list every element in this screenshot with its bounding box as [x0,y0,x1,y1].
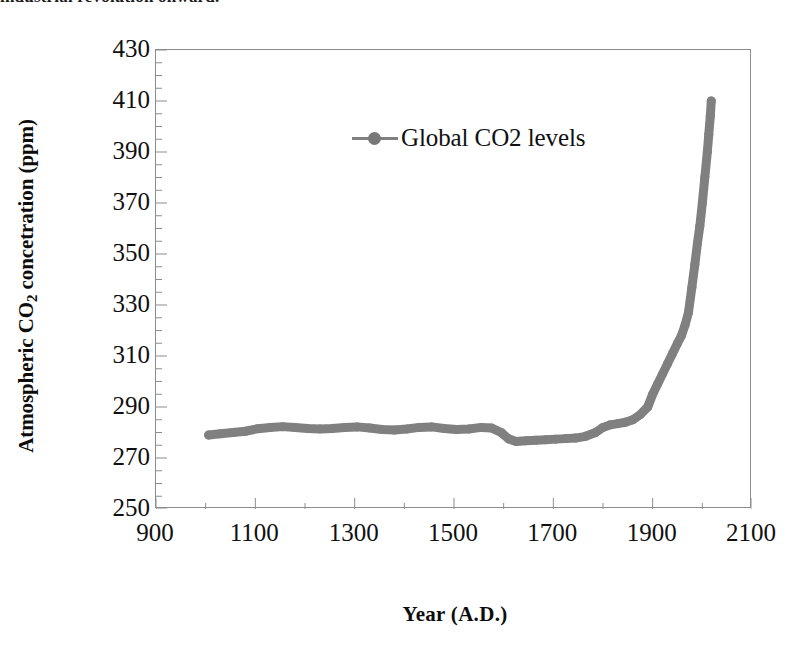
series-canvas [156,50,752,509]
co2-series-line [209,101,712,441]
x-tick-label: 1700 [497,520,607,545]
y-tick-label: 430 [88,36,150,61]
x-tick-label: 1900 [597,520,707,545]
y-tick-label: 310 [88,342,150,367]
y-axis-title-suffix: concetration (ppm) [14,119,38,294]
x-axis-title: Year (A.D.) [155,602,755,627]
legend: Global CO2 levels [352,124,585,152]
co2-chart-figure: Atmospheric CO2 concetration (ppm) 25027… [0,0,787,666]
x-tick-label: 1500 [398,520,508,545]
y-tick-label: 390 [88,138,150,163]
plot-area: Global CO2 levels [155,49,751,508]
legend-marker-icon [352,130,398,146]
x-axis-tick-labels: 900110013001500170019002100 [0,520,787,560]
y-tick-label: 370 [88,189,150,214]
y-tick-label: 410 [88,87,150,112]
x-tick-label: 2100 [696,520,787,545]
y-tick-label: 250 [88,495,150,520]
legend-label: Global CO2 levels [401,124,585,152]
axis-ticks [156,50,752,509]
x-tick-label: 1100 [199,520,309,545]
y-tick-label: 330 [88,291,150,316]
y-axis-title-subscript: 2 [24,295,40,302]
y-axis-tick-labels: 250270290310330350370390410430 [78,0,150,666]
y-axis-title-prefix: Atmospheric CO [14,302,38,453]
y-tick-label: 270 [88,444,150,469]
x-tick-label: 1300 [299,520,409,545]
x-tick-label: 900 [100,520,210,545]
y-tick-label: 350 [88,240,150,265]
y-tick-label: 290 [88,393,150,418]
y-axis-title: Atmospheric CO2 concetration (ppm) [14,46,44,526]
